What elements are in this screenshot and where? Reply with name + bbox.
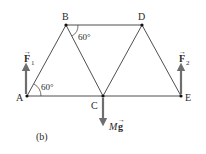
joint-label-e: E (185, 92, 191, 103)
joint-a (25, 94, 28, 97)
angle-arc-a (34, 84, 41, 96)
svg-text:g: g (118, 121, 123, 132)
joint-label-b: B (62, 11, 69, 22)
truss-diagram: A B C D E 60° 60° → F 1 → F 2 M → g (b) (0, 0, 206, 154)
member-de (142, 25, 181, 96)
angle-label-a: 60° (41, 82, 54, 92)
force-mg-label: M → g (108, 116, 125, 132)
force-f1-label: → F 1 (24, 48, 35, 67)
svg-text:F: F (24, 53, 30, 64)
figure-caption: (b) (36, 131, 48, 143)
angle-label-b: 60° (78, 32, 91, 42)
joint-label-c: C (91, 100, 98, 111)
member-cd (103, 25, 142, 96)
joint-e (179, 94, 182, 97)
svg-text:F: F (179, 53, 185, 64)
svg-text:2: 2 (186, 59, 190, 67)
joint-c (101, 94, 104, 97)
joint-b (64, 23, 67, 26)
svg-text:1: 1 (31, 59, 35, 67)
joint-label-a: A (16, 92, 24, 103)
joint-label-d: D (138, 11, 145, 22)
joint-d (140, 23, 143, 26)
force-f2-label: → F 2 (179, 48, 190, 67)
svg-text:M: M (108, 121, 118, 132)
truss-figure: A B C D E 60° 60° → F 1 → F 2 M → g (b) (0, 0, 206, 154)
